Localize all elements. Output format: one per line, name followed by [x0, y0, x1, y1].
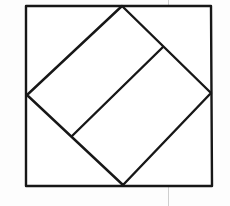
figure-svg — [0, 0, 230, 206]
geometric-figure-canvas — [0, 0, 230, 206]
outer-square-fill — [26, 6, 212, 186]
